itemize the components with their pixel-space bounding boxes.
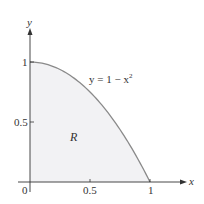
curve-equation-exponent: 2 (129, 72, 133, 80)
curve-equation-label: y = 1 − x2 (89, 72, 133, 85)
chart-root: y x 0 0.5 1 0.5 1 R y = 1 − x2 (0, 0, 204, 204)
origin-label: 0 (22, 184, 28, 196)
x-tick-label-1: 1 (148, 184, 154, 196)
x-tick-label-0.5: 0.5 (83, 184, 97, 196)
x-axis-label: x (188, 175, 194, 187)
y-axis-label: y (26, 16, 32, 28)
x-axis-arrow-icon (180, 180, 187, 185)
y-tick-label-0.5: 0.5 (14, 116, 28, 128)
chart-canvas: y x 0 0.5 1 0.5 1 R y = 1 − x2 (0, 0, 204, 204)
region-label: R (69, 130, 78, 144)
y-tick-label-1: 1 (22, 56, 28, 68)
y-axis-arrow-icon (28, 28, 33, 35)
curve-equation-main: y = 1 − x (89, 73, 129, 85)
